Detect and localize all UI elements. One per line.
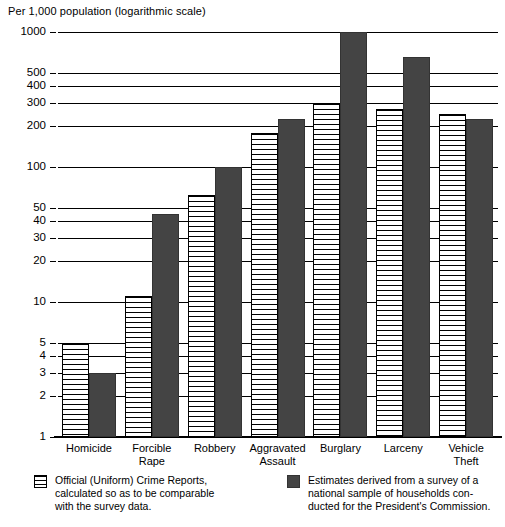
bar-official	[188, 195, 215, 437]
legend-swatch-dark	[287, 475, 300, 488]
legend-swatch-light	[34, 475, 47, 488]
y-axis-tick-label: 1	[0, 431, 46, 442]
y-axis-tick-mark	[50, 356, 56, 357]
y-axis-tick-mark	[50, 32, 56, 33]
x-axis-category-label: Burglary	[305, 442, 375, 455]
y-axis-tick-mark	[50, 238, 56, 239]
x-axis-category-label: Homicide	[54, 442, 124, 455]
y-axis-tick-mark	[50, 261, 56, 262]
bar-survey	[152, 214, 179, 437]
bar-survey	[89, 373, 116, 437]
y-axis-tick-label: 1000	[0, 26, 46, 37]
y-axis-tick-mark	[50, 103, 56, 104]
bar-group	[439, 32, 502, 437]
legend-label: Official (Uniform) Crime Reports, calcul…	[55, 474, 214, 513]
y-axis-tick-label: 200	[0, 120, 46, 131]
y-axis-tick-mark	[50, 73, 56, 74]
y-axis-tick-mark	[50, 343, 56, 344]
y-axis-tick-label: 40	[0, 215, 46, 226]
bar-survey	[466, 119, 493, 437]
x-axis-category-label: Vehicle Theft	[431, 442, 501, 467]
y-axis-tick-label: 5	[0, 337, 46, 348]
x-axis-category-label: Robbery	[180, 442, 250, 455]
bar-group	[376, 32, 439, 437]
bar-group	[62, 32, 125, 437]
y-axis-tick-mark	[50, 126, 56, 127]
chart-legend: Official (Uniform) Crime Reports, calcul…	[0, 474, 505, 526]
y-axis-tick-mark	[50, 86, 56, 87]
bar-group	[313, 32, 376, 437]
y-axis-tick-label: 30	[0, 232, 46, 243]
legend-label: Estimates derived from a survey of a nat…	[308, 474, 490, 513]
bar-survey	[215, 167, 242, 437]
y-axis-tick-mark	[50, 221, 56, 222]
y-axis-tick-label: 300	[0, 97, 46, 108]
bar-survey	[278, 119, 305, 437]
bar-survey	[340, 32, 367, 437]
y-axis-tick-mark	[50, 302, 56, 303]
y-axis-tick-label: 50	[0, 202, 46, 213]
y-axis-tick-label: 20	[0, 255, 46, 266]
y-axis-tick-label: 4	[0, 350, 46, 361]
bar-group	[251, 32, 314, 437]
y-axis-tick-mark	[50, 396, 56, 397]
x-axis-category-label: Larceny	[368, 442, 438, 455]
bar-official	[376, 109, 403, 437]
x-axis-category-label: Forcible Rape	[117, 442, 187, 467]
plot-area: 1234510203040501002003004005001000Homici…	[58, 32, 498, 437]
bar-official	[125, 296, 152, 437]
bar-group	[188, 32, 251, 437]
y-axis-tick-mark	[50, 373, 56, 374]
y-axis-tick-mark	[50, 208, 56, 209]
chart-root: Per 1,000 population (logarithmic scale)…	[0, 0, 505, 527]
bar-survey	[403, 57, 430, 437]
legend-entry: Estimates derived from a survey of a nat…	[287, 474, 502, 513]
y-axis-tick-label: 100	[0, 161, 46, 172]
bar-group	[125, 32, 188, 437]
y-axis-tick-mark	[50, 167, 56, 168]
bar-official	[62, 343, 89, 437]
bar-official	[313, 103, 340, 437]
y-axis-tick-label: 400	[0, 80, 46, 91]
bar-official	[251, 133, 278, 437]
y-axis-tick-label: 2	[0, 390, 46, 401]
y-axis-tick-mark	[50, 437, 56, 438]
page-title: Per 1,000 population (logarithmic scale)	[8, 5, 206, 17]
y-axis-tick-label: 500	[0, 67, 46, 78]
y-axis-tick-label: 10	[0, 296, 46, 307]
x-axis-category-label: Aggravated Assault	[243, 442, 313, 467]
legend-entry: Official (Uniform) Crime Reports, calcul…	[34, 474, 274, 513]
y-axis-tick-label: 3	[0, 367, 46, 378]
bar-official	[439, 114, 466, 437]
